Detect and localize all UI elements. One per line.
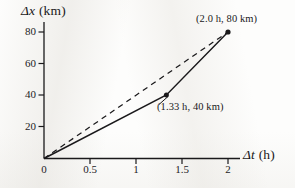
x-tick-label-2: 2 bbox=[218, 163, 238, 175]
origin-tick-label: 0 bbox=[34, 163, 54, 175]
y-tick-label-80: 80 bbox=[14, 25, 36, 37]
y-tick-label-20: 20 bbox=[14, 120, 36, 132]
x-axis-title: Δt (h) bbox=[243, 147, 275, 163]
x-axis-unit: (h) bbox=[259, 147, 275, 162]
average-velocity-dashed-line bbox=[44, 32, 228, 159]
y-axis-title: Δx (km) bbox=[21, 3, 66, 19]
annotation-point-1-33h-40km: (1.33 h, 40 km) bbox=[157, 101, 224, 112]
y-tick-label-40: 40 bbox=[14, 88, 36, 100]
y-axis-unit: (km) bbox=[39, 3, 66, 18]
x-tick-label-1-5: 1.5 bbox=[172, 163, 192, 175]
x-tick-label-0-5: 0.5 bbox=[80, 163, 100, 175]
displacement-time-figure: Δx (km) Δt (h) 80 60 40 20 0 0.5 1 1.5 2… bbox=[0, 0, 295, 188]
x-tick-label-1: 1 bbox=[126, 163, 146, 175]
y-tick-label-60: 60 bbox=[14, 57, 36, 69]
y-axis-symbol: Δx bbox=[21, 3, 35, 18]
data-point-marker-2-0h-80km bbox=[225, 29, 230, 34]
x-axis-symbol: Δt bbox=[243, 147, 255, 162]
annotation-point-2-0h-80km: (2.0 h, 80 km) bbox=[196, 13, 257, 24]
